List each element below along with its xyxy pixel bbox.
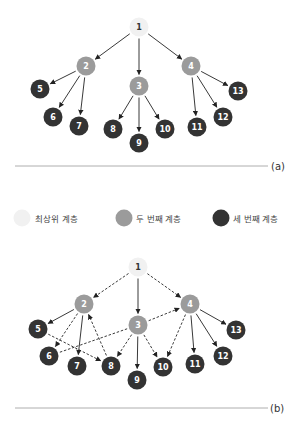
edge-4-to-11 — [192, 77, 196, 115]
node-label: 2 — [83, 62, 89, 71]
node-label: 4 — [188, 62, 194, 71]
node-label: 5 — [35, 325, 41, 334]
node-label: 11 — [189, 360, 201, 369]
node-label: 5 — [37, 85, 43, 94]
legend-label: 세 번째 계층 — [233, 214, 278, 224]
node-label: 1 — [135, 263, 141, 272]
node-label: 7 — [76, 122, 82, 131]
legend-label: 두 번째 계층 — [136, 214, 181, 224]
edge-3-to-10 — [145, 96, 159, 119]
node-8: 8 — [104, 120, 123, 139]
node-10: 10 — [156, 120, 175, 139]
node-1: 1 — [130, 18, 149, 37]
node-9: 9 — [130, 134, 149, 153]
legend-item-second: 두 번째 계층 — [116, 210, 182, 227]
edge-4-to-11 — [191, 315, 194, 352]
node-label: 11 — [191, 123, 203, 132]
edge-4-to-12 — [196, 314, 217, 347]
node-label: 3 — [135, 321, 141, 330]
node-1: 1 — [129, 258, 148, 277]
edge-3-to-8 — [119, 96, 133, 119]
node-label: 8 — [110, 125, 116, 134]
edge-3-to-4 — [149, 308, 180, 320]
edge-2-to-6 — [59, 76, 80, 108]
edge-3-to-9 — [137, 336, 138, 368]
edge-1-to-4 — [147, 274, 180, 298]
legend-swatch — [14, 210, 31, 227]
diagram-a: 12345678910111213(a) — [15, 18, 285, 173]
hierarchy-figure: 12345678910111213(a) 최상위 계층두 번째 계층세 번째 계… — [0, 0, 300, 439]
legend-label: 최상위 계층 — [35, 214, 78, 224]
node-4: 4 — [181, 295, 200, 314]
node-9: 9 — [128, 371, 147, 390]
edge-1-to-2 — [95, 34, 129, 59]
node-8: 8 — [102, 357, 121, 376]
edge-3-to-8 — [117, 335, 131, 357]
nodes: 12345678910111213 — [29, 258, 246, 390]
node-7: 7 — [70, 117, 89, 136]
edge-2-to-7 — [80, 77, 84, 114]
edge-2-to-5 — [48, 309, 74, 323]
edge-1-to-2 — [93, 274, 128, 298]
node-6: 6 — [40, 347, 59, 366]
edge-6-to-3 — [60, 329, 127, 352]
edge-2-to-5 — [50, 71, 75, 84]
node-2: 2 — [77, 57, 96, 76]
node-label: 10 — [157, 363, 169, 372]
node-3: 3 — [130, 77, 149, 96]
edge-2-to-7 — [78, 315, 82, 354]
node-label: 13 — [232, 87, 243, 96]
node-5: 5 — [29, 320, 48, 339]
edge-2-to-6 — [55, 314, 77, 347]
node-13: 13 — [229, 82, 248, 101]
node-10: 10 — [154, 358, 173, 377]
node-label: 3 — [136, 82, 142, 91]
edge-4-to-12 — [197, 76, 217, 108]
node-13: 13 — [227, 321, 246, 340]
node-5: 5 — [31, 80, 50, 99]
diagram-b: 12345678910111213(b) — [15, 258, 284, 415]
diagram-caption: (a) — [271, 161, 285, 172]
node-label: 13 — [230, 326, 241, 335]
node-2: 2 — [75, 295, 94, 314]
node-4: 4 — [182, 57, 201, 76]
edge-4-to-13 — [201, 71, 228, 85]
edge-3-to-10 — [144, 335, 157, 357]
node-label: 12 — [217, 352, 228, 361]
edge-4-to-13 — [200, 310, 226, 325]
edge-4-to-10 — [168, 315, 186, 357]
node-label: 9 — [136, 139, 142, 148]
node-label: 9 — [134, 376, 140, 385]
node-label: 6 — [46, 352, 52, 361]
nodes: 12345678910111213 — [31, 18, 248, 153]
node-11: 11 — [188, 118, 207, 137]
edge-1-to-4 — [148, 34, 182, 59]
node-12: 12 — [214, 347, 233, 366]
node-11: 11 — [186, 355, 205, 374]
legend-swatch — [213, 210, 230, 227]
node-6: 6 — [44, 108, 63, 127]
node-label: 6 — [50, 113, 56, 122]
legend-item-top: 최상위 계층 — [14, 210, 78, 227]
node-label: 4 — [187, 300, 193, 309]
node-label: 1 — [136, 23, 142, 32]
node-label: 7 — [74, 362, 80, 371]
edge-8-to-2 — [89, 315, 107, 356]
node-label: 12 — [217, 113, 228, 122]
diagram-caption: (b) — [270, 403, 284, 414]
node-label: 10 — [159, 125, 171, 134]
legend-swatch — [116, 210, 133, 227]
legend: 최상위 계층두 번째 계층세 번째 계층 — [14, 210, 279, 227]
node-12: 12 — [214, 108, 233, 127]
node-label: 2 — [81, 300, 87, 309]
node-7: 7 — [68, 357, 87, 376]
node-label: 8 — [108, 362, 114, 371]
legend-item-third: 세 번째 계층 — [213, 210, 279, 227]
node-3: 3 — [129, 316, 148, 335]
